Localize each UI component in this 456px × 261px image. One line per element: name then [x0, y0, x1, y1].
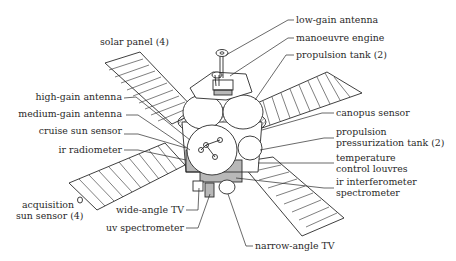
label-ir-interferometer-spectrometer: ir interferometer spectrometer — [336, 177, 417, 198]
label-high-gain-antenna: high-gain antenna — [32, 92, 122, 103]
label-low-gain-antenna: low-gain antenna — [296, 15, 378, 26]
label-solar-panel: solar panel (4) — [100, 37, 169, 48]
label-uv-spectrometer: uv spectrometer — [90, 223, 184, 234]
label-canopus-sensor: canopus sensor — [336, 108, 410, 119]
label-medium-gain-antenna: medium-gain antenna — [12, 109, 122, 120]
high-gain-antenna-dish — [187, 125, 237, 175]
label-narrow-angle-tv: narrow-angle TV — [255, 241, 335, 252]
label-propulsion-tank: propulsion tank (2) — [296, 50, 387, 61]
label-ir-radiometer: ir radiometer — [40, 145, 122, 156]
pressurization-tank — [238, 136, 262, 160]
label-manoeuvre-engine: manoeuvre engine — [296, 33, 384, 44]
solar-panel-upper-right — [255, 72, 362, 128]
label-temperature-control-louvres: temperature control louvres — [336, 153, 408, 174]
label-wide-angle-tv: wide-angle TV — [100, 205, 184, 216]
label-propulsion-pressurization-tank: propulsion pressurization tank (2) — [336, 127, 444, 148]
label-cruise-sun-sensor: cruise sun sensor — [32, 126, 122, 137]
spacecraft-diagram: solar panel (4) high-gain antenna medium… — [0, 0, 456, 261]
label-acquisition-sun-sensor: acquisition sun sensor (4) — [16, 200, 80, 221]
